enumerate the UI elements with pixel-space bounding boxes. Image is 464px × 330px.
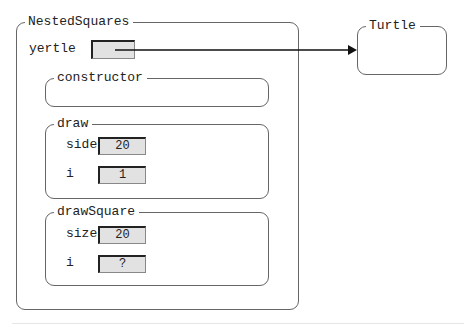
nestedsquares-title: NestedSquares (25, 14, 133, 30)
draw-i-value: 1 (98, 166, 146, 184)
drawsquare-size-label: size (66, 226, 97, 242)
drawsquare-frame: drawSquare (45, 212, 269, 286)
draw-title: draw (54, 116, 92, 132)
constructor-title: constructor (54, 70, 147, 86)
draw-i-label: i (66, 166, 74, 182)
drawsquare-title: drawSquare (54, 204, 139, 220)
draw-side-label: side (66, 137, 97, 153)
drawsquare-i-value: ? (98, 255, 146, 273)
turtle-title: Turtle (366, 18, 420, 34)
draw-frame: draw (45, 124, 269, 199)
yertle-label: yertle (29, 41, 76, 57)
arrow-head-icon (348, 45, 357, 55)
drawsquare-size-value: 20 (98, 226, 146, 244)
draw-side-value: 20 (98, 137, 146, 155)
constructor-frame: constructor (45, 78, 269, 107)
drawsquare-i-label: i (66, 255, 74, 271)
yertle-reference-box (91, 40, 135, 59)
turtle-object: Turtle (357, 26, 447, 75)
bottom-divider (12, 323, 464, 324)
